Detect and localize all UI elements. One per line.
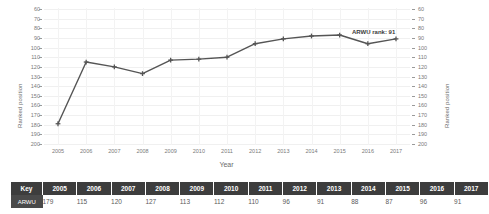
data-point-marker: [56, 121, 61, 126]
data-point-marker: [140, 71, 145, 76]
key-table-value: 91: [317, 195, 351, 208]
data-point-marker: [309, 34, 314, 39]
key-table: Key2005200620072008200920102011201220132…: [11, 182, 489, 208]
key-table-value: 88: [351, 195, 385, 208]
key-table-year-header: 2014: [351, 182, 385, 195]
key-table-value: 179: [43, 195, 77, 208]
data-point-marker: [225, 55, 230, 60]
arwu-rank-chart: Ranked position Ranked position 60708090…: [0, 0, 453, 176]
x-axis-label: Year: [0, 161, 453, 168]
key-table-value: 115: [77, 195, 111, 208]
series-line-arwu: [58, 35, 396, 124]
key-table-year-header: 2011: [248, 182, 282, 195]
key-table-value: 110: [248, 195, 282, 208]
key-table-value: 91: [454, 195, 488, 208]
key-table-year-header: 2005: [43, 182, 77, 195]
data-point-marker: [196, 57, 201, 62]
data-point-marker: [253, 41, 258, 46]
key-table-value: 87: [385, 195, 419, 208]
key-table-year-header: 2007: [111, 182, 145, 195]
key-table-value: 96: [283, 195, 317, 208]
key-table-year-header: 2012: [283, 182, 317, 195]
key-table-value: 127: [145, 195, 179, 208]
key-table-year-header: 2015: [385, 182, 419, 195]
key-table-value: 113: [180, 195, 214, 208]
data-point-marker: [365, 41, 370, 46]
key-table-value: 120: [111, 195, 145, 208]
data-point-marker: [281, 36, 286, 41]
key-table-year-header: 2013: [317, 182, 351, 195]
key-table-value: 96: [420, 195, 454, 208]
key-table-key-header: Key: [11, 182, 43, 195]
key-table-year-header: 2006: [77, 182, 111, 195]
key-table-year-header: 2008: [145, 182, 179, 195]
key-table-year-header: 2009: [180, 182, 214, 195]
key-table-year-header: 2010: [214, 182, 248, 195]
data-point-marker: [168, 58, 173, 63]
key-table-year-header: 2017: [454, 182, 488, 195]
data-point-marker: [84, 60, 89, 65]
data-point-marker: [337, 33, 342, 38]
key-table-data-row: ARWU179115120127113112110969188879691: [11, 195, 488, 208]
key-table-year-header: 2016: [420, 182, 454, 195]
data-point-marker: [394, 36, 399, 41]
data-point-annotation: ARWU rank: 91: [352, 29, 395, 35]
key-table-value: 112: [214, 195, 248, 208]
key-table-header-row: Key2005200620072008200920102011201220132…: [11, 182, 488, 195]
data-point-marker: [112, 64, 117, 69]
plot-line-series: [0, 0, 453, 176]
key-table-row-label: ARWU: [11, 195, 43, 208]
